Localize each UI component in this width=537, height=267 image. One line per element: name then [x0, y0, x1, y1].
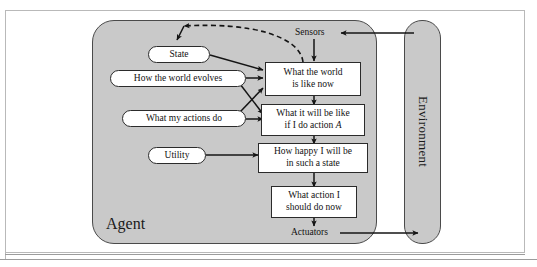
page-bottom-rule-lower	[0, 259, 537, 260]
node-what-it-will-be-like[interactable]: What it will be like if I do action A	[261, 104, 365, 136]
node-what-it-will-be-like-line2-pre: if I do action	[285, 120, 336, 130]
node-what-it-will-be-like-action-var: A	[336, 120, 342, 130]
environment-label: Environment	[404, 20, 441, 244]
node-world-now-line2: is like now	[283, 79, 342, 91]
node-what-my-actions-do-label: What my actions do	[146, 114, 222, 124]
environment-label-text: Environment	[415, 96, 431, 167]
node-what-action-line2: should do now	[286, 202, 342, 214]
node-what-action[interactable]: What action I should do now	[271, 186, 357, 218]
label-actuators: Actuators	[291, 227, 328, 237]
node-state[interactable]: State	[148, 46, 210, 63]
page-bottom-rule-upper	[5, 254, 525, 255]
node-what-it-will-be-like-line1: What it will be like	[276, 108, 349, 120]
node-how-happy-line1: How happy I will be	[274, 146, 352, 158]
page-left-rule	[5, 10, 6, 259]
label-sensors: Sensors	[295, 27, 325, 37]
node-how-happy-line2: in such a state	[274, 158, 352, 170]
node-how-world-evolves[interactable]: How the world evolves	[110, 70, 246, 87]
node-state-label: State	[170, 50, 189, 60]
node-utility-label: Utility	[165, 151, 190, 161]
node-world-now-line1: What the world	[283, 67, 342, 79]
node-what-it-will-be-like-line2: if I do action A	[276, 120, 349, 132]
node-how-happy[interactable]: How happy I will be in such a state	[258, 143, 368, 173]
agent-label: Agent	[106, 215, 145, 233]
node-utility[interactable]: Utility	[148, 147, 206, 164]
node-what-my-actions-do[interactable]: What my actions do	[122, 110, 246, 127]
node-what-action-line1: What action I	[286, 190, 342, 202]
node-how-world-evolves-label: How the world evolves	[134, 74, 222, 84]
node-world-now[interactable]: What the world is like now	[265, 62, 361, 96]
figure-canvas: Environment Agent	[0, 0, 537, 267]
